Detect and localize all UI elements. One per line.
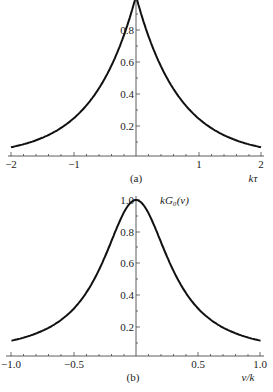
y-tick-label: 0.4 <box>120 289 134 301</box>
y-tick-label: 0.6 <box>120 56 134 68</box>
figure: −2 −1 1 2 0.2 0.4 0.6 0.8 (a) kτ −1.0 −0… <box>0 0 273 392</box>
y-tick-label: 1.0 <box>120 194 134 206</box>
x-tick-label: 1.0 <box>253 358 267 370</box>
y-tick-label: 0.8 <box>120 226 134 238</box>
y-tick-label: 0.2 <box>120 321 134 333</box>
x-tick-label: −0.5 <box>64 358 84 370</box>
y-axis-label-b: kG₀(ν) <box>160 194 189 207</box>
x-tick-label: −1.0 <box>1 358 21 370</box>
y-tick-label: 0.4 <box>120 88 134 100</box>
x-ticks-b <box>11 352 260 356</box>
panel-caption-b: (b) <box>127 371 140 384</box>
x-tick-label: −2 <box>5 158 17 170</box>
x-tick-label: 0.5 <box>191 358 205 370</box>
x-axis-label-b: ν/k <box>242 371 256 383</box>
panel-caption-a: (a) <box>130 172 143 185</box>
y-tick-label: 0.2 <box>120 120 134 132</box>
y-tick-label: 0.6 <box>120 257 134 269</box>
x-tick-label: −1 <box>68 158 80 170</box>
y-ticks-b <box>136 200 140 343</box>
panel-b: −1.0 −0.5 0.5 1.0 0.2 0.4 0.6 0.8 1.0 kG… <box>1 194 267 384</box>
panel-a: −2 −1 1 2 0.2 0.4 0.6 0.8 (a) kτ <box>5 0 264 185</box>
x-axis-label-a: kτ <box>249 172 259 184</box>
y-ticks-a <box>136 14 140 142</box>
x-tick-label: 1 <box>196 158 202 170</box>
x-tick-label: 2 <box>258 158 264 170</box>
